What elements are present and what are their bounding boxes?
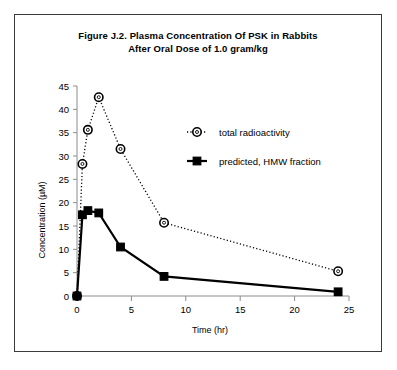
series-2 <box>73 207 342 300</box>
x-axis-tick-label: 0 <box>74 304 79 315</box>
legend-marker <box>193 157 201 165</box>
data-series-group <box>73 93 343 300</box>
series-1 <box>73 93 343 300</box>
y-axis-tick-label: 10 <box>58 244 69 255</box>
series-line <box>77 97 338 296</box>
data-point <box>160 273 168 281</box>
x-axis-title: Time (hr) <box>192 325 228 335</box>
plot-area: 051015202530354045 0510152025 total radi… <box>15 15 383 353</box>
figure-frame: Figure J.2. Plasma Concentration Of PSK … <box>14 14 382 352</box>
data-point <box>84 207 92 215</box>
data-point <box>117 243 125 251</box>
x-axis-tick-label: 5 <box>129 304 134 315</box>
y-axis-tick-label: 30 <box>58 151 69 162</box>
x-axis-tick-label: 15 <box>235 304 246 315</box>
legend-marker-inner <box>196 131 199 134</box>
legend-label: total radioactivity <box>219 127 290 138</box>
y-axis-title: Concentration (µM) <box>37 181 47 258</box>
data-point-inner <box>119 148 122 151</box>
y-axis-tick-label: 25 <box>58 174 69 185</box>
y-axis-tick-label: 20 <box>58 197 69 208</box>
data-point-inner <box>81 162 84 165</box>
y-axis-tick-label: 0 <box>64 291 69 302</box>
data-point-inner <box>97 96 100 99</box>
y-axis-tick-label: 5 <box>64 267 69 278</box>
legend-label: predicted, HMW fraction <box>219 156 321 167</box>
data-point-inner <box>163 221 166 224</box>
legend-item-2: predicted, HMW fraction <box>187 156 321 167</box>
x-axis: 0510152025 <box>74 296 354 315</box>
y-axis-tick-label: 15 <box>58 221 69 232</box>
x-axis-tick-label: 25 <box>344 304 355 315</box>
legend-item-1: total radioactivity <box>187 127 290 138</box>
data-point <box>95 209 103 217</box>
x-axis-tick-label: 20 <box>289 304 300 315</box>
data-point-inner <box>337 270 340 273</box>
y-axis: 051015202530354045 <box>58 81 77 302</box>
x-axis-tick-label: 10 <box>181 304 192 315</box>
chart-legend: total radioactivitypredicted, HMW fracti… <box>187 127 321 167</box>
data-point <box>73 292 81 300</box>
y-axis-tick-label: 35 <box>58 127 69 138</box>
y-axis-tick-label: 40 <box>58 104 69 115</box>
y-axis-tick-label: 45 <box>58 81 69 92</box>
data-point <box>334 288 342 296</box>
data-point-inner <box>86 128 89 131</box>
series-line <box>77 211 338 296</box>
